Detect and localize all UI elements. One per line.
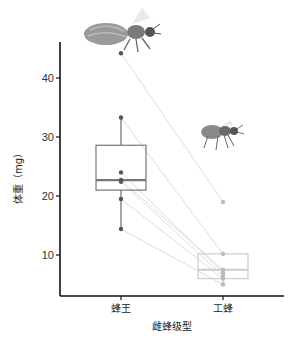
- y-tick-label: 10: [42, 249, 54, 261]
- worker-bee-icon: [201, 120, 244, 150]
- data-point: [221, 200, 225, 204]
- x-tick-label: 工蜂: [213, 302, 233, 314]
- data-point: [119, 115, 123, 119]
- data-point: [119, 170, 123, 174]
- queen-bee-icon: [84, 8, 161, 52]
- pair-line: [121, 172, 223, 272]
- x-ticks: 蜂王工蜂: [111, 296, 233, 314]
- data-points: [119, 51, 225, 287]
- box-plot-chart: 10203040 蜂王工蜂 雌蜂级型 体重（mg）: [0, 0, 297, 345]
- y-tick-label: 30: [42, 131, 54, 143]
- data-point: [119, 180, 123, 184]
- data-point: [119, 227, 123, 231]
- x-axis-title: 雌蜂级型: [152, 320, 192, 332]
- box-plots: [96, 118, 248, 285]
- y-ticks: 10203040: [42, 72, 60, 261]
- y-tick-label: 40: [42, 72, 54, 84]
- paired-lines: [121, 53, 223, 284]
- x-tick-label: 蜂王: [111, 302, 131, 314]
- data-point: [221, 276, 225, 280]
- pair-line: [121, 182, 223, 276]
- data-point: [221, 252, 225, 256]
- pair-line: [121, 199, 223, 279]
- y-axis-title: 体重（mg）: [12, 148, 24, 204]
- data-point: [119, 51, 123, 55]
- data-point: [119, 197, 123, 201]
- data-point: [221, 282, 225, 286]
- y-tick-label: 20: [42, 190, 54, 202]
